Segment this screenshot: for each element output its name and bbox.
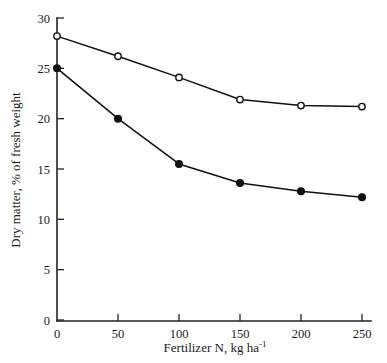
y-tick-label: 0 [44, 314, 50, 328]
chart-figure: 051015202530 050100150200250 Dry matter,… [0, 0, 387, 363]
y-tick-label: 10 [38, 213, 51, 227]
x-tick-label: 250 [353, 327, 372, 341]
x-tick-label: 100 [170, 327, 189, 341]
data-point [359, 194, 366, 201]
y-axis-title-group: Dry matter, % of fresh weight [8, 92, 23, 248]
x-tick-label: 150 [231, 327, 250, 341]
data-point [115, 115, 122, 122]
x-tick-label: 0 [54, 327, 60, 341]
x-tick-label: 50 [112, 327, 125, 341]
line-chart: 051015202530 050100150200250 Dry matter,… [0, 0, 387, 363]
chart-background [0, 0, 387, 363]
data-point [54, 33, 60, 39]
y-tick-label: 20 [38, 112, 51, 126]
y-tick-label: 30 [38, 12, 51, 26]
x-axis-title-exponent: -1 [259, 339, 267, 349]
data-point [54, 65, 61, 72]
x-axis-title-text: Fertilizer N, kg ha [164, 340, 260, 355]
data-point [115, 53, 121, 59]
y-axis-title: Dry matter, % of fresh weight [8, 92, 23, 248]
x-axis-title-group: Fertilizer N, kg ha-1 [164, 339, 267, 355]
data-point [359, 103, 365, 109]
data-point [176, 74, 182, 80]
data-point [237, 96, 243, 102]
y-tick-label: 25 [38, 62, 51, 76]
data-point [298, 102, 304, 108]
x-axis-title: Fertilizer N, kg ha-1 [164, 339, 267, 355]
data-point [298, 188, 305, 195]
y-tick-label: 5 [44, 263, 50, 277]
data-point [237, 180, 244, 187]
data-point [176, 161, 183, 168]
y-tick-label: 15 [38, 163, 51, 177]
x-tick-label: 200 [292, 327, 311, 341]
